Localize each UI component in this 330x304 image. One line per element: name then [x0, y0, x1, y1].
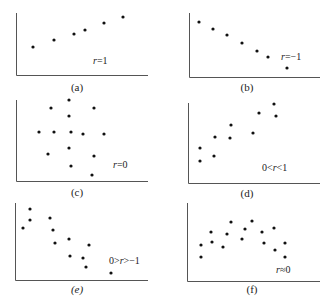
- points-e: [21, 207, 112, 274]
- data-point: [260, 230, 263, 233]
- data-point: [262, 241, 265, 244]
- annotation-a: r=1: [93, 55, 108, 66]
- data-point: [198, 146, 201, 149]
- caption-e: (e): [71, 283, 84, 296]
- data-point: [21, 226, 24, 229]
- data-point: [37, 130, 40, 133]
- annotation-d: 0<r<1: [262, 162, 287, 173]
- caption-f: (f): [247, 283, 258, 296]
- data-point: [46, 152, 49, 155]
- data-point: [81, 256, 84, 259]
- data-point: [221, 245, 224, 248]
- data-point: [225, 232, 228, 235]
- data-point: [285, 66, 288, 69]
- data-point: [52, 38, 55, 41]
- points-d: [198, 102, 277, 162]
- data-point: [48, 216, 51, 219]
- data-point: [240, 41, 243, 44]
- annotation-e: 0>r>−1: [109, 255, 140, 266]
- panel-f: r≈0 (f): [188, 203, 321, 296]
- axes-d: [189, 103, 321, 184]
- data-point: [92, 106, 95, 109]
- caption-d: (d): [241, 187, 254, 200]
- data-point: [212, 154, 215, 157]
- data-point: [67, 114, 70, 117]
- annotation-b: r=−1: [281, 51, 301, 62]
- points-a: [31, 15, 124, 48]
- caption-a: (a): [71, 81, 84, 94]
- data-point: [69, 164, 72, 167]
- panel-e: 0>r>−1 (e): [16, 203, 149, 296]
- data-point: [274, 114, 277, 117]
- axes-e: [16, 203, 149, 281]
- annotation-f: r≈0: [276, 264, 290, 275]
- data-point: [52, 130, 55, 133]
- axes-b: [190, 13, 321, 78]
- data-point: [49, 106, 52, 109]
- data-point: [87, 243, 90, 246]
- data-point: [90, 173, 93, 176]
- data-point: [69, 130, 72, 133]
- data-point: [51, 228, 54, 231]
- data-point: [53, 241, 56, 244]
- data-point: [283, 255, 286, 258]
- data-point: [67, 98, 70, 101]
- data-point: [283, 241, 286, 244]
- data-point: [272, 226, 275, 229]
- data-point: [250, 219, 253, 222]
- axes-f: [188, 203, 321, 282]
- points-f: [199, 219, 286, 258]
- data-point: [225, 33, 228, 36]
- data-point: [83, 28, 86, 31]
- data-point: [229, 220, 232, 223]
- points-c: [37, 98, 105, 176]
- data-point: [92, 154, 95, 157]
- scatter-figure: r=1 (a) r=−1 (b) r=0 (c) 0<r<1 (d) 0>r>−…: [0, 0, 330, 304]
- data-point: [240, 237, 243, 240]
- annotation-c: r=0: [113, 159, 128, 170]
- data-point: [102, 132, 105, 135]
- caption-b: (b): [241, 81, 254, 94]
- data-point: [121, 15, 124, 18]
- data-point: [81, 132, 84, 135]
- data-point: [228, 136, 231, 139]
- data-point: [273, 248, 276, 251]
- data-point: [109, 271, 112, 274]
- data-point: [31, 45, 34, 48]
- data-point: [199, 255, 202, 258]
- data-point: [84, 265, 87, 268]
- panel-c: r=0 (c): [17, 98, 149, 199]
- panel-d: 0<r<1 (d): [189, 102, 321, 200]
- data-point: [255, 49, 258, 52]
- data-point: [257, 111, 260, 114]
- data-point: [272, 102, 275, 105]
- data-point: [211, 27, 214, 30]
- data-point: [72, 32, 75, 35]
- data-point: [67, 237, 70, 240]
- data-point: [28, 207, 31, 210]
- axes-c: [17, 100, 149, 182]
- data-point: [210, 240, 213, 243]
- data-point: [197, 20, 200, 23]
- axes-a: [17, 13, 149, 76]
- points-b: [197, 20, 288, 69]
- data-point: [229, 123, 232, 126]
- data-point: [266, 55, 269, 58]
- data-point: [243, 227, 246, 230]
- data-point: [102, 21, 105, 24]
- data-point: [68, 254, 71, 257]
- caption-c: (c): [71, 186, 84, 199]
- data-point: [213, 135, 216, 138]
- panel-b: r=−1 (b): [190, 13, 321, 94]
- data-point: [67, 146, 70, 149]
- panel-a: r=1 (a): [17, 13, 149, 94]
- data-point: [199, 243, 202, 246]
- data-point: [209, 230, 212, 233]
- data-point: [28, 218, 31, 221]
- data-point: [251, 131, 254, 134]
- data-point: [198, 159, 201, 162]
